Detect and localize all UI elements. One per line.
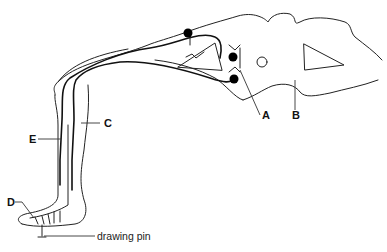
label-b: B bbox=[292, 109, 300, 121]
label-a: A bbox=[262, 109, 270, 121]
leader-d bbox=[15, 202, 34, 218]
label-c: C bbox=[104, 117, 112, 129]
reflex-arc-diagram: A B C E D drawing pin bbox=[0, 0, 387, 252]
sensory-cell-body bbox=[184, 29, 193, 38]
motor-neuron bbox=[72, 62, 236, 190]
spinal-cord bbox=[178, 13, 382, 100]
label-e: E bbox=[29, 133, 36, 145]
grey-matter-right bbox=[304, 44, 344, 70]
leg bbox=[18, 85, 88, 226]
relay-cell-body bbox=[229, 53, 238, 62]
label-drawing-pin: drawing pin bbox=[97, 230, 151, 242]
leader-a bbox=[240, 70, 260, 115]
label-d: D bbox=[7, 196, 15, 208]
central-canal bbox=[257, 57, 267, 67]
motor-cell-body bbox=[230, 75, 239, 84]
